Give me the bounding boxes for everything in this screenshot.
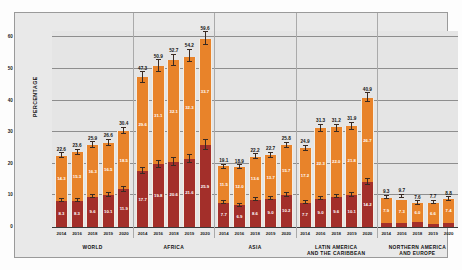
error-bar-cap (365, 184, 370, 185)
error-bar-cap (75, 149, 80, 150)
bar-world-2019: 16.510.1 (102, 143, 115, 227)
error-bar-cap (349, 196, 354, 197)
error-bar-cap (203, 149, 208, 150)
group-separator (133, 13, 134, 238)
error-bar-cap (237, 206, 242, 207)
y-tick-label-20: 20 (0, 161, 13, 166)
bar-value-moderate: 15.3 (71, 174, 84, 179)
error-bar-cap (334, 197, 339, 198)
bar-northern-america-and-europe-2014: 7.9 (380, 198, 393, 227)
error-bar-cap (237, 164, 242, 165)
error-bar-cap (221, 200, 226, 201)
bar-asia-2018: 13.68.6 (249, 157, 262, 227)
gridline-50 (52, 68, 458, 69)
error-bar-cap (268, 157, 273, 158)
bar-value-moderate: 7.4 (442, 208, 455, 213)
error-bar-cap (221, 168, 226, 169)
bar-value-severe: 7.7 (299, 212, 312, 217)
bar-value-moderate: 16.5 (102, 167, 115, 172)
bar-value-moderate: 26.7 (361, 138, 374, 143)
gridline-40 (52, 100, 458, 101)
bar-latin-america-and-the-caribbean-2020: 26.714.2 (361, 98, 374, 227)
bar-value-moderate: 32.3 (183, 105, 196, 110)
bar-latin-america-and-the-caribbean-2019: 21.810.1 (345, 126, 358, 227)
error-bar-cap (90, 197, 95, 198)
y-tick-label-30: 30 (0, 130, 13, 135)
bar-world-2016: 15.38.3 (71, 152, 84, 227)
bar-value-moderate: 32.1 (167, 109, 180, 114)
error-bar-cap (268, 152, 273, 153)
error-bar-cap (106, 145, 111, 146)
error-bar-cap (253, 153, 258, 154)
bar-value-moderate: 11.5 (217, 182, 230, 187)
bar-world-2020: 18.511.9 (117, 131, 130, 227)
bar-value-severe: 7.7 (217, 212, 230, 217)
group-label-asia: ASIA (214, 245, 295, 251)
error-bar-cap (237, 203, 242, 204)
error-bar-cap (59, 157, 64, 158)
error-bar-cap (446, 200, 451, 201)
x-tick-label-2020: 2020 (196, 231, 214, 236)
bar-value-moderate: 33.7 (199, 89, 212, 94)
bar-value-moderate: 13.6 (249, 176, 262, 181)
error-bar-cap (303, 200, 308, 201)
bar-northern-america-and-europe-2016: 7.3 (395, 196, 408, 227)
error-bar-cap (284, 192, 289, 193)
group-label-line: AND THE CARIBBEAN (296, 251, 377, 257)
group-separator (296, 13, 297, 238)
error-bar-cap (203, 31, 208, 32)
bar-africa-2016: 31.119.8 (152, 66, 165, 227)
bar-value-severe: 9.0 (314, 210, 327, 215)
error-bar-cap (318, 196, 323, 197)
error-bar-cap (318, 199, 323, 200)
error-bar-cap (446, 196, 451, 197)
bar-total-label: 52.7 (161, 48, 186, 53)
gridline-30 (52, 131, 458, 132)
chart-frame: 14.38.322.615.38.323.616.39.625.916.510.… (14, 12, 448, 258)
error-bar-cap (221, 164, 226, 165)
bar-latin-america-and-the-caribbean-2018: 22.09.6 (330, 128, 343, 227)
error-bar-cap (365, 178, 370, 179)
bar-value-moderate: 17.2 (299, 173, 312, 178)
error-bar-cap (140, 71, 145, 72)
error-bar-cap (221, 203, 226, 204)
bar-africa-2020: 33.725.9 (199, 39, 212, 227)
bar-value-severe: 21.6 (183, 190, 196, 195)
x-tick-label-2020: 2020 (440, 231, 458, 236)
error-bar-cap (365, 92, 370, 93)
bar-value-severe: 19.8 (152, 193, 165, 198)
bar-value-severe: 9.0 (264, 210, 277, 215)
bar-value-severe: 8.3 (71, 211, 84, 216)
error-bar-cap (284, 142, 289, 143)
bar-value-severe: 9.6 (330, 209, 343, 214)
bar-value-severe: 9.6 (86, 209, 99, 214)
error-bar-cap (106, 139, 111, 140)
bar-africa-2014: 29.617.7 (136, 77, 149, 227)
error-bar-cap (318, 124, 323, 125)
bar-value-moderate: 13.7 (264, 175, 277, 180)
error-bar-cap (284, 147, 289, 148)
bar-world-2014: 14.38.3 (55, 156, 68, 227)
error-bar-cap (334, 194, 339, 195)
bar-africa-2018: 32.120.6 (167, 60, 180, 227)
error-bar-cap (140, 82, 145, 83)
bar-value-moderate: 31.1 (152, 113, 165, 118)
bar-value-severe: 10.2 (280, 208, 293, 213)
error-bar-cap (187, 49, 192, 50)
error-bar-cap (187, 61, 192, 62)
error-bar-cap (121, 133, 126, 134)
error-bar-cap (253, 200, 258, 201)
bar-world-2018: 16.39.6 (86, 145, 99, 227)
chart-figure: 14.38.322.615.38.323.616.39.625.916.510.… (0, 0, 462, 270)
error-bar-cap (106, 196, 111, 197)
y-tick-label-50: 50 (0, 66, 13, 71)
bar-value-severe: 17.7 (136, 197, 149, 202)
group-separator (377, 13, 378, 238)
bar-northern-america-and-europe-2020: 7.4 (442, 199, 455, 227)
bar-value-moderate: 18.5 (117, 158, 130, 163)
bar-value-severe: 6.9 (233, 214, 246, 219)
group-label-line: AFRICA (133, 245, 214, 251)
bar-value-moderate: 7.3 (395, 209, 408, 214)
group-label-northern-america-and-europe: NORTHERN AMERICAAND EUROPE (377, 245, 458, 258)
error-bar-cap (90, 194, 95, 195)
